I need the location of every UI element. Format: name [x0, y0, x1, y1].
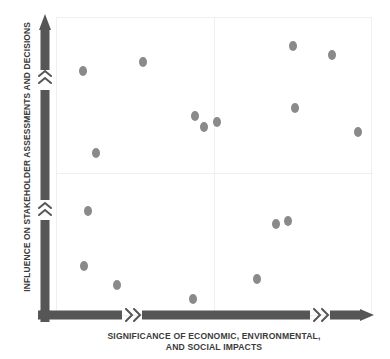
materiality-matrix-chart: INFLUENCE ON STAKEHOLDER ASSESSMENTS AND… [0, 0, 390, 359]
data-point [354, 127, 362, 137]
quadrant-divider-vertical [214, 18, 215, 317]
data-point [272, 219, 280, 229]
data-point [284, 216, 292, 226]
data-point [113, 280, 121, 290]
data-point [291, 103, 299, 113]
data-point [139, 57, 147, 67]
data-point [189, 294, 197, 304]
data-point [289, 41, 297, 51]
x-axis-label: SIGNIFICANCE OF ECONOMIC, ENVIRONMENTAL,… [56, 331, 372, 353]
data-point [84, 206, 92, 216]
data-point [328, 50, 336, 60]
y-axis [38, 12, 52, 322]
x-axis [38, 308, 376, 322]
data-point [253, 274, 261, 284]
y-axis-label: INFLUENCE ON STAKEHOLDER ASSESSMENTS AND… [23, 7, 33, 307]
plot-area [56, 17, 372, 316]
data-point [92, 148, 100, 158]
data-point [191, 111, 199, 121]
data-point [200, 122, 208, 132]
quadrant-divider-horizontal [57, 173, 373, 174]
x-axis-label-line-2: AND SOCIAL IMPACTS [56, 342, 372, 353]
data-point [79, 66, 87, 76]
data-point [213, 117, 221, 127]
data-point [80, 261, 88, 271]
x-axis-label-line-1: SIGNIFICANCE OF ECONOMIC, ENVIRONMENTAL, [56, 331, 372, 342]
